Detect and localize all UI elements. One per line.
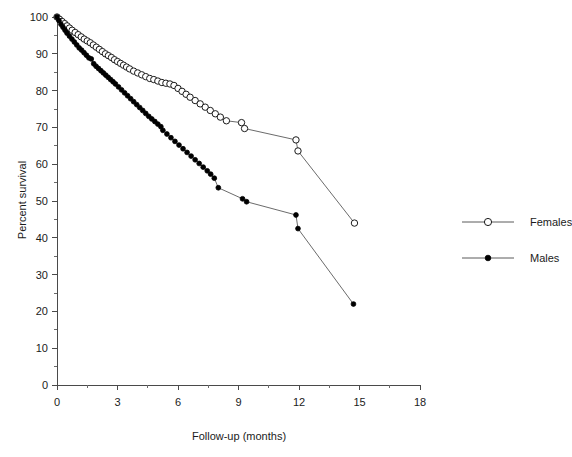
y-axis-title: Percent survival [16,161,28,239]
x-tick-label: 0 [54,396,60,408]
data-point [173,139,178,144]
data-point [351,302,356,307]
x-tick-label: 6 [175,396,181,408]
data-point [217,114,223,120]
y-tick-label: 90 [36,48,48,60]
data-point [294,213,299,218]
data-point [238,119,244,125]
y-tick-label: 80 [36,85,48,97]
y-tick-label: 0 [42,379,48,391]
y-tick-label: 10 [36,342,48,354]
x-tick-label: 9 [235,396,241,408]
y-tick-label: 20 [36,305,48,317]
chart-background [0,0,572,457]
y-tick-label: 50 [36,195,48,207]
y-tick-label: 100 [30,11,48,23]
data-point [208,172,213,177]
x-tick-label: 15 [353,396,365,408]
x-tick-label: 18 [414,396,426,408]
y-tick-label: 40 [36,232,48,244]
data-point [212,176,217,181]
data-point [201,165,206,170]
data-point [216,185,221,190]
data-point [241,125,247,131]
chart-canvas: 0102030405060708090100 0369121518 Percen… [0,0,572,457]
data-point [296,226,301,231]
data-point [185,150,190,155]
legend-label: Females [530,216,572,228]
y-tick-label: 30 [36,269,48,281]
data-point [197,161,202,166]
data-point [193,157,198,162]
data-point [293,137,299,143]
x-tick-label: 3 [114,396,120,408]
data-point [189,154,194,159]
data-point [89,57,94,62]
y-tick-label: 70 [36,121,48,133]
legend-marker [484,218,491,225]
data-point [181,146,186,151]
legend-marker [485,255,491,261]
data-point [351,220,357,226]
data-point [223,118,229,124]
x-axis-title: Follow-up (months) [192,430,286,442]
data-point [244,199,249,204]
y-tick-label: 60 [36,158,48,170]
legend-label: Males [530,252,560,264]
data-point [295,148,301,154]
data-point [160,128,165,133]
data-point [169,135,174,140]
data-point [177,143,182,148]
x-tick-label: 12 [293,396,305,408]
survival-chart-figure: 0102030405060708090100 0369121518 Percen… [0,0,572,457]
data-point [165,132,170,137]
